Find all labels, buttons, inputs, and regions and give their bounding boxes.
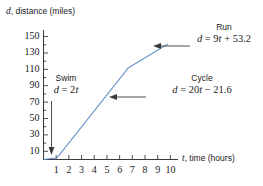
chart-figure: d, distance (miles) t, time (hours) — [0, 0, 263, 186]
annotation-cycle: Cycle d = 20t − 21.6 — [147, 73, 257, 95]
swim-eq-var: t — [75, 84, 78, 95]
run-eq-rel: = 9 — [202, 33, 218, 44]
y-tick-label: 90 — [20, 79, 40, 90]
y-tick-label: 30 — [20, 128, 40, 139]
annotation-swim-label: Swim — [40, 73, 92, 83]
annotation-cycle-equation: d = 20t − 21.6 — [147, 84, 257, 95]
annotation-arrows — [49, 43, 190, 155]
annotation-run-label: Run — [186, 22, 262, 32]
cycle-eq-tail: − 21.6 — [202, 84, 232, 95]
y-tick-label: 10 — [20, 145, 40, 156]
run-eq-tail: + 53.2 — [222, 33, 252, 44]
swim-arrow — [49, 101, 55, 155]
swim-eq-rel: = 2 — [59, 84, 75, 95]
annotation-run-equation: d = 9t + 53.2 — [186, 33, 262, 44]
x-tick-label: 10 — [163, 164, 177, 175]
distance-line — [44, 44, 168, 160]
y-tick-label: 130 — [20, 46, 40, 57]
cycle-eq-rel: = 20 — [178, 84, 200, 95]
data-series — [44, 44, 168, 160]
annotation-swim: Swim d = 2t — [40, 73, 92, 95]
y-axis-ticks — [44, 37, 49, 160]
run-arrow — [153, 43, 190, 49]
annotation-swim-equation: d = 2t — [40, 84, 92, 95]
cycle-arrow — [109, 94, 146, 100]
y-tick-label: 150 — [20, 30, 40, 41]
x-axis-ticks — [56, 155, 170, 160]
annotation-cycle-label: Cycle — [147, 73, 257, 83]
y-tick-label: 70 — [20, 96, 40, 107]
annotation-run: Run d = 9t + 53.2 — [186, 22, 262, 44]
y-tick-label: 50 — [20, 112, 40, 123]
y-tick-label: 110 — [20, 63, 40, 74]
